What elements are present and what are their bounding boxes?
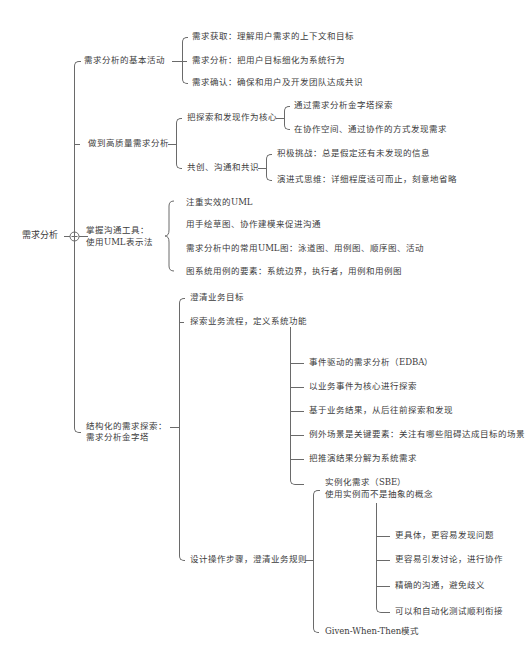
connector xyxy=(258,168,266,169)
connector xyxy=(179,322,184,323)
node-automated-testing[interactable]: 可以和自动化测试顺利衔接 xyxy=(395,606,503,617)
node-more-concrete[interactable]: 更具体，更容易发现问题 xyxy=(395,530,494,541)
node-co-create[interactable]: 共创、沟通和共识 xyxy=(187,162,259,173)
bracket xyxy=(313,560,319,633)
bracket xyxy=(176,144,182,169)
branch-structured-line2[interactable]: 需求分析金字塔 xyxy=(86,432,149,443)
node-sbe-line2[interactable]: 使用实例而不是抽象的概念 xyxy=(325,489,433,500)
node-pragmatic-uml[interactable]: 注重实效的UML xyxy=(186,197,253,208)
root-node[interactable]: 需求分析 xyxy=(22,230,58,241)
node-explore-process[interactable]: 探索业务流程，定义系统功能 xyxy=(190,316,307,327)
node-sbe-line1[interactable]: 实例化需求（SBE） xyxy=(325,477,406,488)
node-requirement-elicitation[interactable]: 需求获取：理解用户需求的上下文和目标 xyxy=(192,31,354,42)
branch-high-quality[interactable]: 做到高质量需求分析 xyxy=(88,138,169,149)
tick xyxy=(296,484,304,485)
tick xyxy=(290,411,304,412)
bracket xyxy=(290,344,297,485)
node-evolutionary-thinking[interactable]: 演进式思维：详细程度适可而止，刻意地省略 xyxy=(277,174,457,185)
branch-basic-activities[interactable]: 需求分析的基本活动 xyxy=(84,55,165,66)
trunk-top xyxy=(74,61,81,237)
node-explore-discover[interactable]: 把探索和发现作为核心 xyxy=(187,112,277,123)
tick xyxy=(290,459,304,460)
node-hand-sketch[interactable]: 用手绘草图、协作建模来促进沟通 xyxy=(186,219,321,230)
node-requirement-analysis[interactable]: 需求分析：把用户目标细化为系统行为 xyxy=(192,55,345,66)
node-backward-explore[interactable]: 基于业务结果，从后往前探索和发现 xyxy=(309,405,453,416)
bracket xyxy=(376,530,383,613)
connector xyxy=(376,503,377,530)
node-decompose-results[interactable]: 把推演结果分解为系统需求 xyxy=(309,453,417,464)
node-discussion[interactable]: 更容易引发讨论，进行协作 xyxy=(395,554,503,565)
connector xyxy=(172,61,182,62)
node-business-event[interactable]: 以业务事件为核心进行探索 xyxy=(309,381,417,392)
connector xyxy=(182,61,187,62)
connector xyxy=(305,560,313,561)
bracket xyxy=(179,427,185,561)
node-exception-scenarios[interactable]: 例外场景是关键要素：关注有哪些阻碍达成目标的场景 xyxy=(309,429,525,440)
bracket xyxy=(176,118,182,145)
bracket xyxy=(182,37,188,62)
tick xyxy=(382,612,390,613)
trunk-tick-2 xyxy=(74,144,80,145)
node-precise-communication[interactable]: 精确的沟通，避免歧义 xyxy=(395,580,485,591)
tick xyxy=(290,435,304,436)
branch-uml-line1[interactable]: 掌握沟通工具： xyxy=(86,225,149,236)
curly-brace xyxy=(164,200,176,272)
node-common-uml[interactable]: 需求分析中的常用UML图：泳道图、用例图、顺序图、活动 xyxy=(186,243,424,254)
node-use-case-elements[interactable]: 图系统用例的要素：系统边界，执行者，用例和用例图 xyxy=(186,266,402,277)
connector xyxy=(276,118,284,119)
branch-uml-line2[interactable]: 使用UML表示法 xyxy=(86,237,153,248)
node-collab-discover[interactable]: 在协作空间、通过协作的方式发现需求 xyxy=(294,124,447,135)
trunk-bottom xyxy=(74,236,81,433)
node-requirement-confirmation[interactable]: 需求确认：确保和用户及开发团队达成共识 xyxy=(192,77,363,88)
branch-structured-line1[interactable]: 结构化的需求探索： xyxy=(86,421,167,432)
connector xyxy=(290,327,291,344)
node-pyramid-explore[interactable]: 通过需求分析金字塔探索 xyxy=(294,100,393,111)
bracket xyxy=(179,298,185,428)
node-active-challenge[interactable]: 积极挑战：总是假定还有未发现的信息 xyxy=(277,148,430,159)
tick xyxy=(376,586,390,587)
bracket xyxy=(284,118,290,130)
tick xyxy=(290,387,304,388)
node-given-when-then[interactable]: Given-When-Then模式 xyxy=(325,626,419,637)
bracket xyxy=(266,168,272,181)
node-design-steps[interactable]: 设计操作步骤，澄清业务规则 xyxy=(190,554,307,565)
bracket xyxy=(313,490,320,561)
tick xyxy=(376,560,390,561)
tick xyxy=(376,536,390,537)
connector xyxy=(168,144,176,145)
bracket xyxy=(266,154,272,169)
node-edba[interactable]: 事件驱动的需求分析（EDBA） xyxy=(309,357,433,368)
node-clarify-goals[interactable]: 澄清业务目标 xyxy=(190,292,244,303)
tick xyxy=(290,363,304,364)
bracket xyxy=(182,61,188,84)
